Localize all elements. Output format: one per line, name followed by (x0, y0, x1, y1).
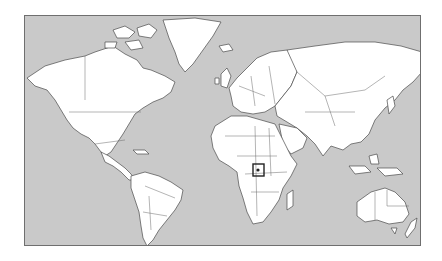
location-dot (256, 168, 259, 171)
south-america (131, 172, 183, 246)
greenland (163, 18, 221, 72)
world-map (24, 15, 421, 246)
north-america (27, 46, 175, 156)
map-canvas (25, 16, 421, 246)
